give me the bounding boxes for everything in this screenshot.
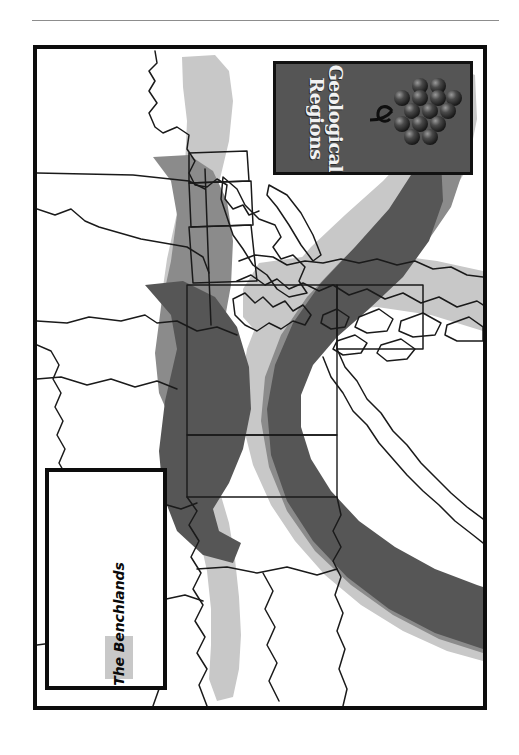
page-root: Geological Regions <box>0 0 519 755</box>
legend-label-benchlands: The Benchlands <box>111 562 127 685</box>
map-frame: Geological Regions <box>33 45 487 710</box>
border-south-3 <box>263 573 279 701</box>
legend-label-wrap: The Benchlands <box>57 479 167 636</box>
island-3 <box>399 313 441 337</box>
legend-item-benchlands: The Benchlands <box>57 479 167 679</box>
map-title-line-1: Geological <box>326 64 345 171</box>
header-divider <box>32 20 499 21</box>
map-legend: The Benchlands The Atlantic Uplands The … <box>45 468 167 690</box>
island-6 <box>377 339 415 361</box>
map-title-card: Geological Regions <box>273 61 473 175</box>
coast-southeast-long <box>337 349 483 519</box>
legend-entries: The Benchlands The Atlantic Uplands The … <box>49 472 163 686</box>
map-title-text: Geological Regions <box>284 64 368 172</box>
grape-cluster-icon <box>358 68 462 172</box>
map-title-line-2: Regions <box>307 64 326 171</box>
